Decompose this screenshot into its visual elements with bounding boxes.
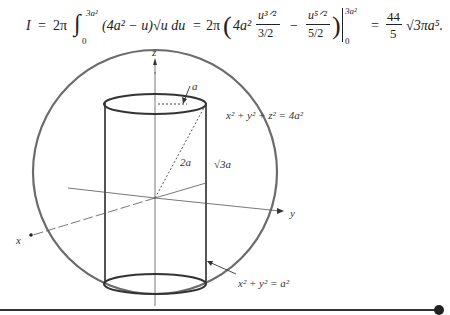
y-axis — [155, 198, 280, 211]
radius-label: a — [192, 80, 198, 92]
sphere-cylinder-figure: z y x a 2a √3a x² + y² + z² = 4a² x² + y… — [0, 0, 450, 315]
z-axis-arrow-icon — [153, 58, 157, 65]
x-axis — [33, 198, 155, 235]
x-axis-arrow-icon — [29, 233, 33, 237]
y-axis-label: y — [289, 207, 295, 219]
x-axis-back — [155, 183, 206, 198]
y-axis-back — [68, 188, 155, 198]
diagonal-label: 2a — [180, 156, 192, 168]
sphere-equation: x² + y² + z² = 4a² — [225, 109, 304, 121]
diagonal-line — [155, 104, 206, 198]
half-height-label: √3a — [214, 158, 232, 170]
radius-pointer-arrow-icon — [182, 97, 187, 104]
cylinder-equation: x² + y² = a² — [237, 277, 290, 289]
x-axis-label: x — [15, 234, 21, 246]
rule-end-dot — [434, 305, 444, 315]
z-axis-label: z — [151, 46, 157, 58]
y-axis-arrow-icon — [277, 208, 284, 214]
